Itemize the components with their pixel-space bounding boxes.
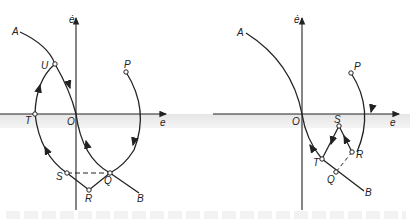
- right-point-s: S: [334, 114, 341, 125]
- left-origin-label: O: [67, 116, 75, 127]
- left-curve-a-u-o: [20, 32, 76, 114]
- figure-caption-cropped: [6, 211, 406, 219]
- right-point-t: T: [313, 157, 320, 168]
- left-point-b: B: [137, 193, 144, 204]
- right-y-axis-label: ė: [294, 14, 300, 25]
- left-labels: ė e O A U T S R Q B P: [11, 14, 166, 204]
- left-x-axis-label: e: [160, 117, 166, 128]
- right-origin-label: O: [292, 116, 300, 127]
- right-dashed-r-q: [336, 152, 352, 172]
- right-labels: ė e O A P S R T Q B: [236, 14, 396, 198]
- phase-plane-diagrams: ė e O A U T S R Q B P: [0, 0, 410, 222]
- right-point-p: P: [354, 61, 361, 72]
- left-y-axis-label: ė: [69, 14, 75, 25]
- left-curve-p-q: [110, 72, 140, 173]
- right-x-axis-label: e: [390, 117, 396, 128]
- left-phase-plane: [0, 18, 166, 210]
- right-line-t-s: [322, 126, 339, 159]
- right-curve-a-o: [246, 33, 302, 114]
- left-point-s: S: [56, 171, 63, 182]
- left-point-t: T: [25, 115, 32, 126]
- left-line-q-b: [110, 173, 139, 193]
- right-point-r: R: [356, 149, 363, 160]
- left-point-r: R: [85, 193, 92, 204]
- right-point-q: Q: [327, 174, 335, 185]
- left-curve-t-u: [35, 64, 55, 114]
- left-point-a: A: [11, 26, 19, 37]
- right-curve-p-r: [351, 73, 365, 152]
- left-point-u: U: [41, 60, 49, 71]
- left-curve-s-t: [35, 114, 67, 173]
- right-phase-plane: [213, 18, 399, 210]
- right-point-a: A: [236, 27, 244, 38]
- right-point-b: B: [365, 187, 372, 198]
- left-point-p: P: [124, 59, 131, 70]
- left-curve-o-q: [76, 114, 110, 173]
- right-curve-o-t: [302, 114, 322, 159]
- left-point-q: Q: [104, 175, 112, 186]
